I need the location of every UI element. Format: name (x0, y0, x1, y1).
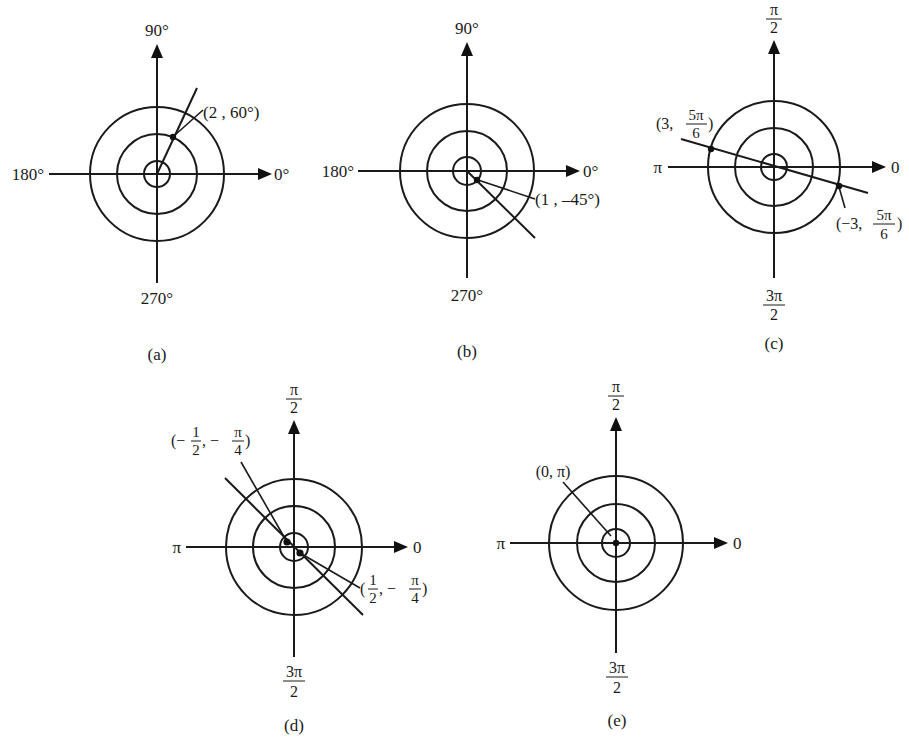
axis-label-right: 0° (274, 165, 289, 184)
axis-label-bottom-numerator: 3π (286, 663, 302, 680)
axis-label-left: π (496, 534, 505, 553)
point-label-1: (3, 5π 6 ) (656, 107, 713, 141)
label-denominator-2: 4 (234, 442, 242, 458)
label-numerator-1: 1 (369, 572, 377, 588)
panel-caption: (e) (608, 711, 627, 730)
plotted-point-1 (283, 538, 290, 545)
point-label: (1 , –45°) (535, 190, 600, 209)
panel-d: π 2 π 0 3π 2 (− 1 2 , − π 4 ) ( 1 2 , − … (171, 381, 427, 735)
label-numerator: 5π (876, 207, 892, 223)
axis-label-top-numerator: π (290, 381, 298, 398)
label-denominator-1: 2 (369, 590, 377, 606)
axis-label-top: 90° (455, 19, 479, 38)
axis-label-left: π (653, 158, 662, 177)
axis-label-left: 180° (12, 165, 44, 184)
label-open: ( (360, 580, 365, 598)
axis-label-bottom-denominator: 2 (770, 306, 778, 323)
panel-caption: (b) (457, 342, 477, 361)
axis-label-top: 90° (145, 21, 169, 40)
arrow-right-icon (566, 165, 580, 177)
label-numerator-2: π (411, 572, 419, 588)
panel-caption: (d) (284, 716, 304, 735)
label-suffix: ) (708, 115, 713, 133)
plotted-point-pole (613, 540, 619, 546)
axis-label-left: π (172, 538, 181, 557)
axis-label-right: 0 (733, 534, 742, 553)
axis-label-top-numerator: π (770, 1, 778, 18)
label-numerator-1: 1 (192, 424, 200, 440)
point-label-2: (−3, 5π 6 ) (836, 207, 902, 242)
arrow-up-icon (461, 42, 473, 56)
plotted-point-2 (836, 183, 842, 189)
axis-label-top-numerator: π (612, 378, 620, 395)
arrow-right-icon (714, 537, 728, 549)
ray-60-deg (157, 88, 197, 174)
axis-label-bottom: 270° (141, 289, 173, 308)
label-numerator: 5π (688, 107, 704, 123)
panel-caption: (a) (148, 345, 167, 364)
label-close: ) (422, 580, 427, 598)
figure-canvas: 90° 180° 0° 270° (2 , 60°) (a) 90° 180° … (0, 0, 909, 744)
panel-b: 90° 180° 0° 270° (1 , –45°) (b) (322, 19, 600, 361)
label-separator: , − (202, 432, 219, 449)
panel-a: 90° 180° 0° 270° (2 , 60°) (a) (12, 21, 290, 364)
axis-label-right: 0 (891, 158, 900, 177)
arrow-up-icon (288, 420, 300, 434)
plotted-point-1 (708, 146, 714, 152)
panel-caption: (c) (765, 334, 784, 353)
arrow-up-icon (151, 44, 163, 58)
label-prefix: (−3, (836, 215, 862, 233)
label-denominator-2: 4 (411, 590, 419, 606)
axis-label-top-denominator: 2 (612, 396, 620, 413)
axis-label-bottom: 270° (451, 286, 483, 305)
axis-label-left: 180° (322, 162, 354, 181)
plotted-point (474, 177, 480, 183)
plotted-point-2 (296, 549, 303, 556)
point-label-2: ( 1 2 , − π 4 ) (360, 572, 427, 606)
leader-line (563, 482, 611, 536)
point-label-1: (− 1 2 , − π 4 ) (171, 424, 250, 458)
label-denominator: 6 (692, 125, 700, 141)
label-open: (− (171, 432, 185, 450)
axis-label-bottom-denominator: 2 (290, 683, 298, 700)
label-prefix: (3, (656, 115, 673, 133)
axis-label-bottom-numerator: 3π (766, 287, 782, 304)
arrow-right-icon (872, 161, 886, 173)
label-separator: , − (379, 580, 396, 597)
label-denominator: 6 (880, 226, 888, 242)
arrow-right-icon (258, 168, 272, 180)
axis-label-bottom-denominator: 2 (613, 679, 621, 696)
arrow-up-icon (768, 40, 780, 54)
axis-label-top-denominator: 2 (770, 19, 778, 36)
panel-c: π 2 π 0 3π 2 (3, 5π 6 ) (−3, 5π 6 ) (c) (653, 1, 902, 353)
label-close: ) (245, 432, 250, 450)
leader-line (839, 187, 845, 208)
label-suffix: ) (897, 215, 902, 233)
point-label: (2 , 60°) (203, 103, 259, 122)
plotted-point (170, 134, 176, 140)
label-denominator-1: 2 (192, 442, 200, 458)
axis-label-bottom-numerator: 3π (609, 659, 625, 676)
arrow-up-icon (610, 417, 622, 431)
label-numerator-2: π (234, 424, 242, 440)
point-label: (0, π) (536, 463, 571, 481)
axis-label-right: 0° (583, 162, 598, 181)
arrow-right-icon (394, 541, 408, 553)
axis-label-right: 0 (413, 538, 422, 557)
polar-coordinates-figure: 90° 180° 0° 270° (2 , 60°) (a) 90° 180° … (0, 0, 909, 744)
axis-label-top-denominator: 2 (290, 399, 298, 416)
panel-e: π 2 π 0 3π 2 (0, π) (e) (496, 378, 741, 730)
